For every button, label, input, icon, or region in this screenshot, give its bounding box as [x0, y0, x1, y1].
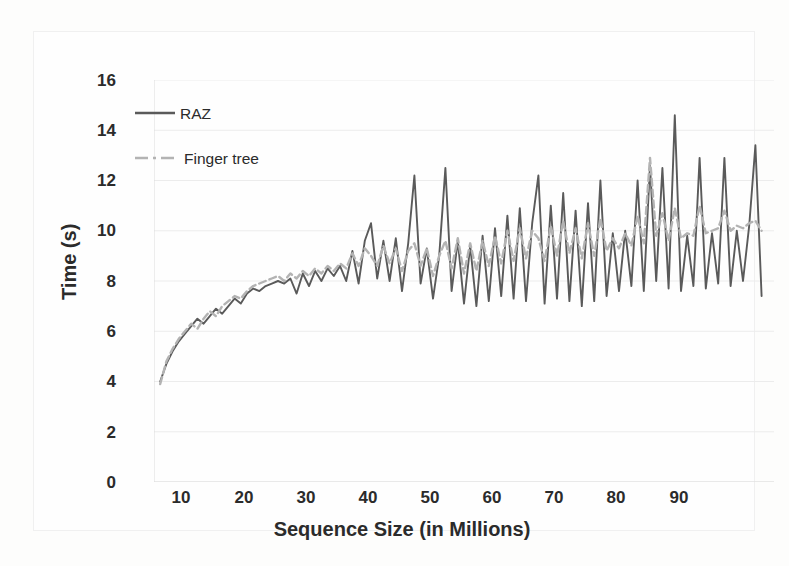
- x-tick-label: 50: [410, 488, 450, 508]
- y-tick-label: 14: [76, 121, 116, 141]
- y-tick-label: 6: [76, 322, 116, 342]
- legend-label-raz: RAZ: [180, 105, 211, 123]
- x-tick-label: 30: [286, 488, 326, 508]
- x-tick-label: 70: [534, 488, 574, 508]
- x-axis-title: Sequence Size (in Millions): [222, 518, 582, 541]
- y-tick-label: 12: [76, 171, 116, 191]
- y-tick-label: 16: [76, 71, 116, 91]
- legend-swatch-finger-tree: [134, 155, 180, 161]
- y-tick-label: 2: [76, 423, 116, 443]
- y-tick-label: 10: [76, 221, 116, 241]
- legend-label-finger-tree: Finger tree: [184, 150, 259, 168]
- figure-frame: Time (s) 16 14 12 10 8 6 4 2 0 10 20 30 …: [33, 31, 755, 531]
- plot-area: [154, 80, 774, 482]
- y-tick-label: 0: [76, 473, 116, 493]
- y-tick-label: 8: [76, 272, 116, 292]
- x-tick-label: 80: [596, 488, 636, 508]
- x-tick-label: 10: [161, 488, 201, 508]
- legend-swatch-raz: [134, 110, 176, 116]
- y-tick-label: 4: [76, 372, 116, 392]
- x-tick-label: 90: [659, 488, 699, 508]
- x-tick-label: 60: [472, 488, 512, 508]
- x-tick-label: 40: [348, 488, 388, 508]
- scanned-page: Time (s) 16 14 12 10 8 6 4 2 0 10 20 30 …: [0, 0, 789, 566]
- x-tick-label: 20: [224, 488, 264, 508]
- chart-canvas: [154, 80, 774, 482]
